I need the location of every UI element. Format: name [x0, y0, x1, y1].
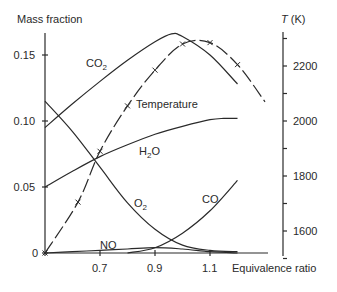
- y-tick-label: 0.10: [14, 115, 35, 127]
- label-no: NO: [100, 239, 117, 251]
- y2-axis-unit: (K): [288, 13, 306, 25]
- x-marker: [235, 62, 240, 67]
- x-marker: [125, 103, 130, 108]
- y-tick-label: 0.15: [14, 49, 35, 61]
- combustion-products-chart: 0.70.91.100.050.100.151600180020002200 M…: [0, 0, 337, 292]
- x-tick-label: 0.9: [147, 262, 162, 274]
- y2-tick-label: 2200: [293, 60, 317, 72]
- y2-tick-label: 1800: [293, 170, 317, 182]
- curve-o2: [45, 101, 238, 252]
- chart-svg: 0.70.91.100.050.100.151600180020002200 M…: [0, 0, 337, 292]
- y-tick-label: 0.05: [14, 181, 35, 193]
- label-o2: O2: [134, 197, 148, 212]
- x-marker: [76, 200, 81, 205]
- label-h2o: H2O: [139, 145, 160, 160]
- x-marker: [180, 42, 185, 47]
- curve-co: [128, 180, 238, 253]
- x-tick-label: 1.1: [202, 262, 217, 274]
- x-axis-title: Equivalence ratio: [232, 262, 316, 274]
- x-marker: [153, 68, 158, 73]
- curves: [45, 33, 265, 253]
- x-tick-label: 0.7: [92, 262, 107, 274]
- label-co2: CO2: [86, 57, 108, 72]
- curve-co2: [45, 33, 238, 127]
- axis-ticks: 0.70.91.100.050.100.151600180020002200: [14, 39, 318, 275]
- y2-tick-label: 2000: [293, 115, 317, 127]
- y-axis-title: Mass fraction: [17, 13, 82, 25]
- y2-axis-title: T (K): [281, 13, 305, 25]
- label-temperature: Temperature: [136, 98, 198, 110]
- y-tick-label: 0: [32, 247, 38, 259]
- y2-tick-label: 1600: [293, 225, 317, 237]
- x-marker: [98, 149, 103, 154]
- label-co: CO: [202, 193, 219, 205]
